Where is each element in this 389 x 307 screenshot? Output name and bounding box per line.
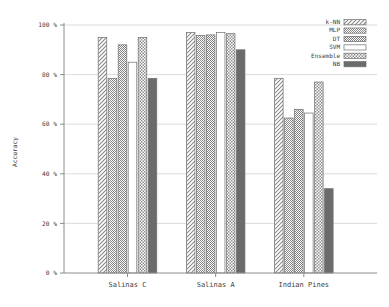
bar-k-nn-salinas-a — [186, 32, 195, 273]
bar-nb-salinas-a — [236, 50, 245, 273]
legend-swatch-nb — [344, 62, 366, 67]
bars-group — [98, 32, 333, 273]
x-category-label-salinas-a: Salinas A — [197, 281, 236, 289]
bar-chart: 0 %20 %40 %60 %80 %100 % Salinas CSalina… — [0, 0, 389, 307]
bar-svm-salinas-c — [128, 62, 137, 273]
bar-mlp-salinas-a — [196, 35, 205, 273]
y-tick-label: 20 % — [42, 220, 57, 227]
y-tick-label: 60 % — [42, 120, 57, 127]
chart-canvas: 0 %20 %40 %60 %80 %100 % Salinas CSalina… — [0, 0, 389, 307]
bar-mlp-salinas-c — [108, 78, 117, 273]
legend-label-ensemble: Ensemble — [311, 52, 340, 59]
y-tick-label: 100 % — [38, 21, 57, 28]
bar-nb-indian-pines — [325, 189, 334, 273]
y-axis-title: Accuracy — [11, 137, 19, 167]
x-axis: Salinas CSalinas AIndian Pines — [64, 273, 377, 289]
bar-ensemble-salinas-c — [138, 37, 147, 273]
y-tick-label: 80 % — [42, 71, 57, 78]
y-axis-ticks: 0 %20 %40 %60 %80 %100 % — [38, 21, 64, 276]
legend-swatch-k-nn — [344, 20, 366, 25]
legend-label-nb: NB — [333, 60, 341, 67]
x-category-label-salinas-c: Salinas C — [109, 281, 147, 289]
bar-ensemble-salinas-a — [226, 34, 235, 273]
bar-ensemble-indian-pines — [315, 82, 324, 273]
bar-nb-salinas-c — [148, 78, 157, 273]
y-tick-label: 40 % — [42, 170, 57, 177]
bar-svm-salinas-a — [216, 32, 225, 273]
bar-dt-salinas-a — [206, 35, 215, 273]
legend-label-svm: SVM — [329, 43, 340, 50]
bar-svm-indian-pines — [305, 113, 314, 273]
x-category-label-indian-pines: Indian Pines — [279, 281, 330, 289]
legend-swatch-mlp — [344, 28, 366, 33]
legend-label-mlp: MLP — [329, 26, 340, 33]
bar-dt-indian-pines — [295, 109, 304, 273]
bar-mlp-indian-pines — [285, 118, 294, 273]
legend-swatch-ensemble — [344, 53, 366, 58]
bar-k-nn-salinas-c — [98, 37, 107, 273]
legend-swatch-svm — [344, 45, 366, 50]
bar-k-nn-indian-pines — [275, 78, 284, 273]
legend-label-k-nn: k-NN — [326, 18, 341, 25]
y-tick-label: 0 % — [46, 269, 57, 276]
legend-label-dt: DT — [333, 35, 341, 42]
bar-dt-salinas-c — [118, 45, 127, 273]
legend-swatch-dt — [344, 36, 366, 41]
